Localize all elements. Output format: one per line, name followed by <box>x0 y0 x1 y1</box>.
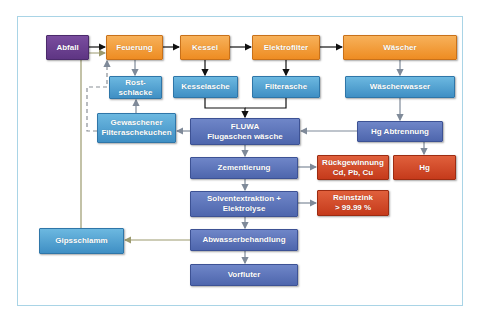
node-feuerung-label: Feuerung <box>116 43 152 53</box>
node-solvent-label-1: Solventextraktion + <box>207 194 281 204</box>
node-vorfluter-label: Vorfluter <box>228 270 261 280</box>
node-fluwa-label-1: FLUWA <box>231 122 259 132</box>
node-waescher: Wäscher <box>343 35 457 60</box>
node-kessel: Kessel <box>180 35 230 60</box>
node-solventextraktion: Solventextraktion + Elektrolyse <box>190 191 298 217</box>
node-gewaschener-label-1: Gewaschener <box>110 118 162 128</box>
node-hg-abtrennung-label: Hg Abtrennung <box>371 127 429 137</box>
node-rostschlacke: Rost- schlacke <box>109 76 162 99</box>
node-solvent-label-2: Elektrolyse <box>223 204 266 214</box>
node-reinstzink-label-2: > 99.99 % <box>335 203 371 213</box>
node-kessel-label: Kessel <box>192 43 218 53</box>
node-zementierung: Zementierung <box>190 157 298 179</box>
node-waescher-label: Wäscher <box>383 43 416 53</box>
node-gewaschener-filteraschekuchen: Gewaschener Filteraschekuchen <box>97 113 176 143</box>
node-rostschlacke-label-1: Rost- <box>125 78 145 88</box>
node-vorfluter: Vorfluter <box>190 264 298 286</box>
node-abfall-label: Abfall <box>56 43 78 53</box>
node-fluwa-label-2: Flugaschen wäsche <box>207 132 283 142</box>
edge-filterasche-fluwa <box>245 98 286 108</box>
node-reinstzink: Reinstzink > 99.99 % <box>317 190 389 216</box>
node-hg-abtrennung: Hg Abtrennung <box>357 121 443 142</box>
edge-kesselasche-fluwa <box>205 98 245 117</box>
node-gewaschener-label-2: Filteraschekuchen <box>101 128 171 138</box>
node-rueckgewinnung-label-1: Rückgewinnung <box>322 158 384 168</box>
node-rostschlacke-label-2: schlacke <box>119 88 153 98</box>
node-abwasser-label: Abwasserbehandlung <box>202 235 285 245</box>
node-filterasche: Filterasche <box>252 76 320 98</box>
node-kesselasche: Kesselasche <box>173 76 238 98</box>
node-elektrofilter: Elektrofilter <box>252 35 320 60</box>
node-feuerung: Feuerung <box>106 35 163 60</box>
node-abfall: Abfall <box>46 35 89 60</box>
node-reinstzink-label-1: Reinstzink <box>333 193 373 203</box>
node-kesselasche-label: Kesselasche <box>181 82 229 92</box>
node-waescherwasser-label: Wäscherwasser <box>370 82 430 92</box>
node-rueckgewinnung-label-2: Cd, Pb, Cu <box>333 168 373 178</box>
node-abwasserbehandlung: Abwasserbehandlung <box>190 229 298 251</box>
node-hg-label: Hg <box>419 163 430 173</box>
node-elektrofilter-label: Elektrofilter <box>264 43 308 53</box>
node-gipsschlamm: Gipsschlamm <box>39 228 124 254</box>
node-rueckgewinnung: Rückgewinnung Cd, Pb, Cu <box>317 155 389 180</box>
node-hg: Hg <box>393 155 456 180</box>
node-gipsschlamm-label: Gipsschlamm <box>55 236 107 246</box>
node-filterasche-label: Filterasche <box>265 82 307 92</box>
node-waescherwasser: Wäscherwasser <box>345 76 455 98</box>
node-zementierung-label: Zementierung <box>218 163 271 173</box>
node-fluwa: FLUWA Flugaschen wäsche <box>190 118 300 145</box>
